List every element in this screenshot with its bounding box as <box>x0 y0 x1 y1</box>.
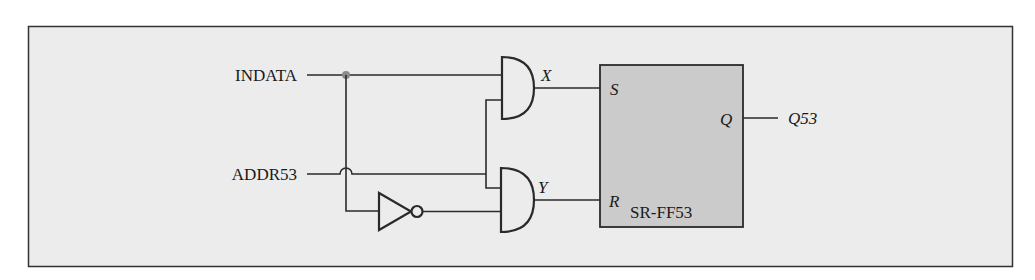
circuit-diagram: INDATA ADDR53 X Y S R Q SR-FF53 Q53 <box>0 0 1035 280</box>
input-label-addr53: ADDR53 <box>232 165 297 184</box>
flipflop-pin-r: R <box>608 192 620 211</box>
input-label-indata: INDATA <box>235 66 298 85</box>
inverter-bubble <box>412 206 423 217</box>
and-top-output-label: X <box>540 66 552 85</box>
flipflop-pin-s: S <box>610 80 619 99</box>
and-bottom-output-label: Y <box>538 178 549 197</box>
flipflop-name: SR-FF53 <box>630 203 692 222</box>
flipflop-pin-q: Q <box>720 110 732 129</box>
output-label-q53: Q53 <box>788 109 817 128</box>
